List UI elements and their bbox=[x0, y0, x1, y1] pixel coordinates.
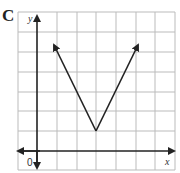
grid bbox=[18, 12, 175, 170]
coordinate-plane: y x 0 bbox=[0, 0, 180, 173]
y-axis-label: y bbox=[27, 13, 33, 24]
x-axis-label: x bbox=[164, 156, 170, 167]
origin-label: 0 bbox=[27, 157, 33, 168]
